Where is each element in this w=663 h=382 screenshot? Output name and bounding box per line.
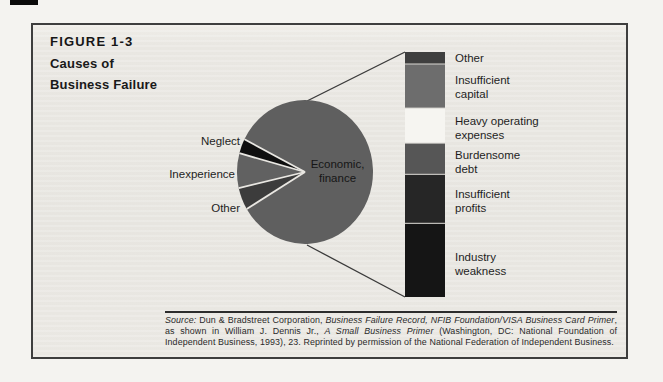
pie-label-economic-finance: Economic, finance [285,157,390,185]
bar-label-burdensome-debt: Burdensome debt [455,149,535,176]
pie-label-inexperience: Inexperience [169,168,235,182]
connector-line-top [307,52,405,101]
bar-segment-other [405,52,445,64]
pie-label-economic-line2: finance [285,171,390,185]
source-segment: Source: [165,315,199,325]
source-citation: Source: Dun & Bradstreet Corporation, Bu… [165,315,617,348]
source-segment: Dun & Bradstreet Corporation, [199,315,325,325]
bar-segment-insufficient-capital [405,64,445,108]
bar-segment-heavy-operating-expenses [405,108,445,143]
bar-label-insufficient-profits: Insufficient profits [455,188,527,215]
source-segment: Business Failure Record, NFIB Foundation… [325,315,614,325]
bar-label-other: Other [455,52,550,66]
connector-line-bottom [307,245,405,297]
pie-label-other: Other [211,202,240,216]
source-segment: A Small Business Primer [324,326,433,336]
bar-label-insufficient-capital: Insufficient capital [455,74,527,101]
bar-segment-burdensome-debt [405,143,445,174]
pie-label-economic-line1: Economic, [285,157,390,171]
bar-label-industry-weakness: Industry weakness [455,251,517,278]
bar-label-heavy-operating-expenses: Heavy operating expenses [455,115,547,142]
bar-segment-industry-weakness [405,223,445,297]
pie-label-neglect: Neglect [201,135,240,149]
bar-segment-insufficient-profits [405,174,445,223]
page: FIGURE 1-3 Causes of Business Failure Ne… [0,0,663,382]
source-rule [165,311,617,313]
